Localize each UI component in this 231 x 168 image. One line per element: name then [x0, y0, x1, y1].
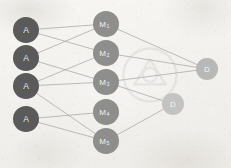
node-subscript-m4: 4	[107, 111, 110, 117]
nodes-group: AAAAM1M2M3M4M5DD	[13, 11, 218, 154]
edge-a3-to-m3	[37, 83, 94, 86]
node-d1[interactable]: D	[196, 58, 218, 80]
node-label-a3: A	[23, 81, 29, 91]
node-a2[interactable]: A	[13, 45, 39, 71]
edge-m5-to-d2	[116, 109, 165, 136]
diagram-canvas: AAAAM1M2M3M4M5DD	[0, 0, 231, 168]
edge-a3-to-m2	[37, 57, 96, 81]
node-m1[interactable]: M1	[93, 11, 119, 37]
edge-a1-to-m2	[37, 33, 95, 50]
edge-m3-to-d2	[117, 86, 164, 101]
node-subscript-m5: 5	[107, 140, 110, 146]
edge-a4-to-m5	[37, 122, 95, 138]
node-m2[interactable]: M2	[93, 40, 119, 66]
node-label-a4: A	[23, 114, 29, 124]
node-subscript-m2: 2	[107, 52, 110, 58]
node-m3[interactable]: M3	[93, 69, 119, 95]
edge-a2-to-m3	[37, 61, 95, 78]
edge-a1-to-m1	[37, 25, 94, 29]
node-subscript-m1: 1	[107, 23, 110, 29]
node-a4[interactable]: A	[13, 106, 39, 132]
node-label-d1: D	[204, 65, 210, 74]
node-a1[interactable]: A	[13, 17, 39, 43]
node-m4[interactable]: M4	[93, 99, 119, 125]
edge-m2-to-d1	[117, 55, 197, 68]
edge-a2-to-m1	[37, 28, 96, 53]
node-subscript-m3: 3	[107, 81, 110, 87]
node-label-a2: A	[23, 53, 29, 63]
node-label-d2: D	[170, 100, 176, 109]
edge-m3-to-d1	[117, 70, 197, 80]
node-a3[interactable]: A	[13, 73, 39, 99]
node-d2[interactable]: D	[162, 93, 184, 115]
network-graph: AAAAM1M2M3M4M5DD	[0, 0, 231, 168]
node-label-a1: A	[23, 25, 29, 35]
node-m5[interactable]: M5	[93, 128, 119, 154]
edge-m1-to-d1	[117, 29, 199, 65]
